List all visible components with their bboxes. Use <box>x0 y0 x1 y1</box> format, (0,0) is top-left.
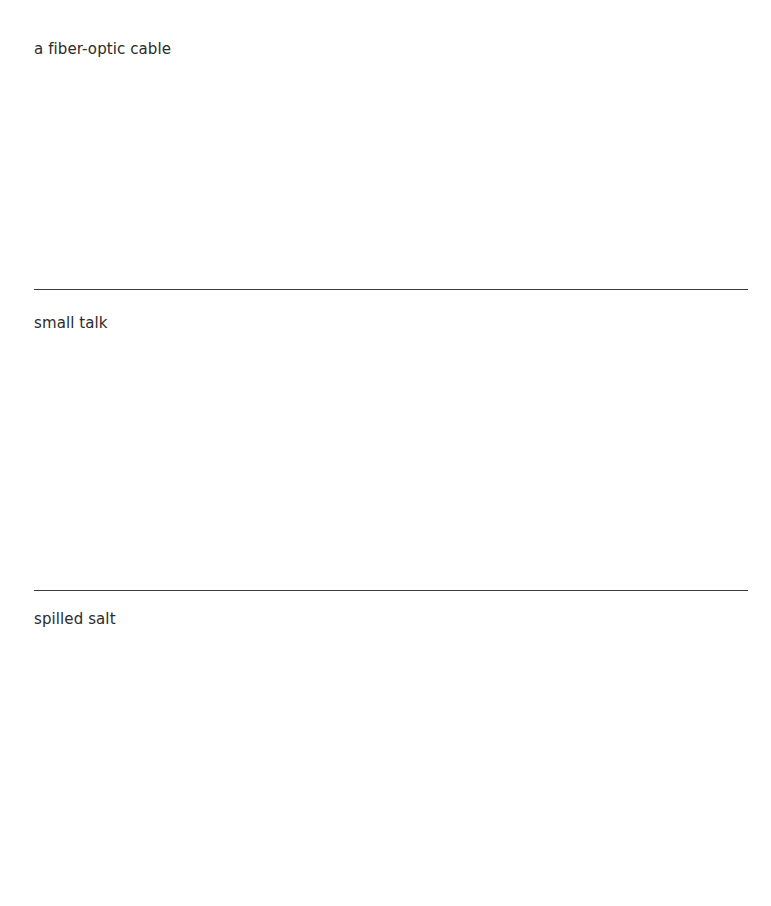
entry-prompt-label: spilled salt <box>34 609 748 629</box>
entry-block-3: spilled salt <box>0 591 771 859</box>
entry-block-2: small talk <box>0 290 771 590</box>
entry-response-area[interactable] <box>34 629 748 859</box>
entry-response-area[interactable] <box>34 59 748 289</box>
worksheet-page: a fiber-optic cable small talk spilled s… <box>0 0 771 906</box>
entry-response-area[interactable] <box>34 333 748 590</box>
entry-block-1: a fiber-optic cable <box>0 0 771 289</box>
entry-prompt-label: small talk <box>34 313 748 333</box>
entry-prompt-label: a fiber-optic cable <box>34 39 748 59</box>
